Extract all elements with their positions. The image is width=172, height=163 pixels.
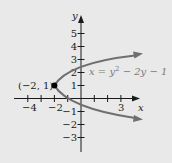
vertex-label: (−2, 1) xyxy=(18,80,53,91)
y-tick-label: 3 xyxy=(71,54,77,65)
equation-part: − 2y − 1 xyxy=(120,66,168,77)
x-tick-label: −4 xyxy=(22,102,37,113)
x-tick-label: −2 xyxy=(48,102,63,113)
x-axis-arrow-icon xyxy=(132,96,140,102)
x-axis-label: x xyxy=(138,102,144,113)
curve-arrow-lower-icon xyxy=(133,115,143,122)
y-tick-label: −1 xyxy=(62,106,77,117)
y-tick-label: 4 xyxy=(71,41,77,52)
parabola-chart: y x −4 −2 3 5 4 3 2 1 −1 −2 −3 (−2, 1) x… xyxy=(0,0,172,163)
y-axis-arrow-icon xyxy=(78,15,84,23)
y-axis-label: y xyxy=(71,10,78,21)
equation-part: x = y xyxy=(89,66,115,77)
curve-arrow-upper-icon xyxy=(133,52,143,59)
y-tick-label: 1 xyxy=(71,80,77,91)
y-tick-label: −3 xyxy=(62,132,77,143)
y-tick-label: 5 xyxy=(71,28,77,39)
x-tick-label: 3 xyxy=(118,102,124,113)
equation-label: x = y2 − 2y − 1 xyxy=(89,65,167,77)
y-tick-label: −2 xyxy=(62,119,77,130)
